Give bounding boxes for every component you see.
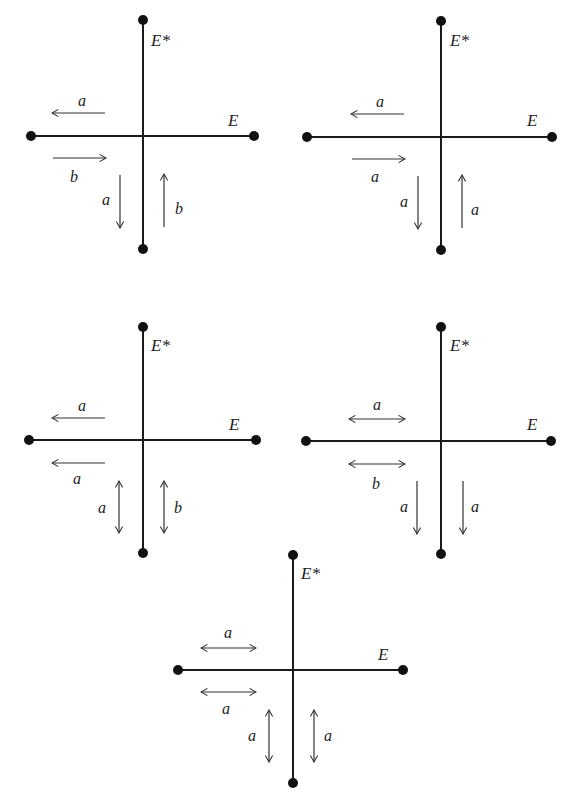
endpoint-dot <box>288 550 298 560</box>
arrow-label: a <box>376 93 384 110</box>
endpoint-dot <box>251 435 261 445</box>
arrow-label: b <box>372 475 380 492</box>
endpoint-dot <box>288 778 298 788</box>
arrow-label: a <box>400 193 408 210</box>
endpoint-dot <box>138 15 148 25</box>
arrow-label: a <box>78 92 86 109</box>
arrow-label: b <box>174 499 182 516</box>
figure-canvas: E* E a b a b E* E a a a a <box>0 0 562 803</box>
panel-3: E* E a a a b <box>24 322 261 558</box>
arrow-label: a <box>78 397 86 414</box>
vertical-axis-label: E* <box>150 31 170 50</box>
panel-1: E* E a b a b <box>26 15 259 254</box>
horizontal-axis-label: E <box>227 111 239 130</box>
arrow-label: a <box>400 498 408 515</box>
panel-5: E* E a a a a <box>173 550 408 788</box>
panel-2: E* E a a a a <box>302 16 557 255</box>
panel-4: E* E a b a a <box>301 322 556 559</box>
endpoint-dot <box>24 435 34 445</box>
arrow-label: a <box>324 727 332 744</box>
horizontal-axis-label: E <box>526 415 538 434</box>
horizontal-axis-label: E <box>228 415 240 434</box>
endpoint-dot <box>546 436 556 446</box>
vertical-axis-label: E* <box>300 564 320 583</box>
endpoint-dot <box>436 549 446 559</box>
arrow-label: a <box>224 624 232 641</box>
endpoint-dot <box>138 322 148 332</box>
vertical-axis-label: E* <box>150 336 170 355</box>
endpoint-dot <box>302 132 312 142</box>
endpoint-dot <box>398 665 408 675</box>
vertical-axis-label: E* <box>449 336 469 355</box>
endpoint-dot <box>138 548 148 558</box>
endpoint-dot <box>173 665 183 675</box>
arrow-label: a <box>98 499 106 516</box>
horizontal-axis-label: E <box>377 645 389 664</box>
endpoint-dot <box>436 322 446 332</box>
arrow-label: a <box>371 168 379 185</box>
endpoint-dot <box>138 244 148 254</box>
arrow-label: a <box>248 727 256 744</box>
vertical-axis-label: E* <box>449 31 469 50</box>
endpoint-dot <box>436 245 446 255</box>
arrow-label: b <box>175 200 183 217</box>
endpoint-dot <box>249 131 259 141</box>
arrow-label: b <box>70 168 78 185</box>
arrow-label: a <box>73 470 81 487</box>
endpoint-dot <box>301 436 311 446</box>
arrow-label: a <box>471 201 479 218</box>
arrow-label: a <box>471 498 479 515</box>
arrow-label: a <box>373 396 381 413</box>
endpoint-dot <box>26 131 36 141</box>
horizontal-axis-label: E <box>526 111 538 130</box>
endpoint-dot <box>436 16 446 26</box>
arrow-label: a <box>102 191 110 208</box>
endpoint-dot <box>547 132 557 142</box>
arrow-label: a <box>222 700 230 717</box>
